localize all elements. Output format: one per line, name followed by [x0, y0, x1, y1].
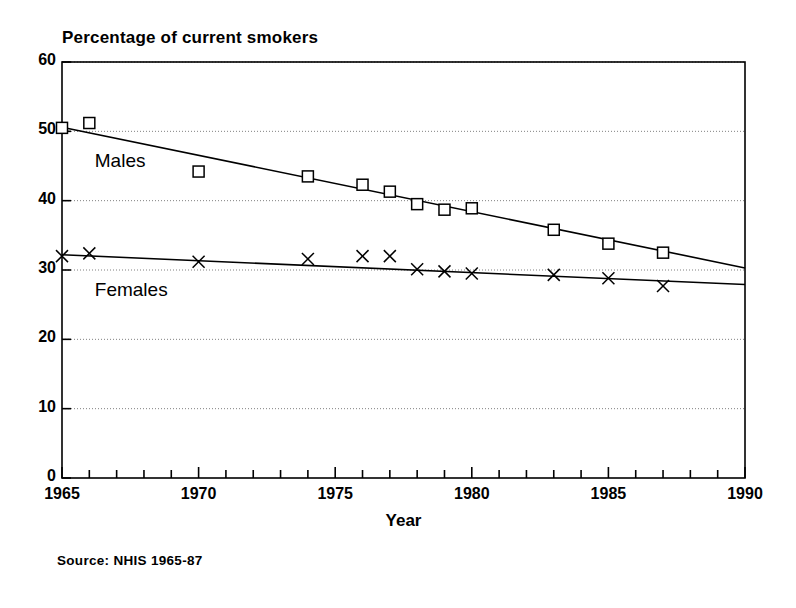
- x-axis-tick-label: 1990: [705, 485, 785, 503]
- y-axis-tick-label: 50: [10, 120, 56, 138]
- y-axis-tick-label: 10: [10, 398, 56, 416]
- series-annotation-males: Males: [95, 150, 146, 172]
- series-annotation-females: Females: [95, 279, 168, 301]
- x-axis-tick-label: 1985: [568, 485, 648, 503]
- source-note: Source: NHIS 1965-87: [57, 553, 203, 568]
- y-axis-tick-label: 20: [10, 328, 56, 346]
- x-axis-tick-label: 1965: [22, 485, 102, 503]
- chart-figure: Percentage of current smokers Year Sourc…: [0, 0, 796, 608]
- x-axis-tick-label: 1975: [295, 485, 375, 503]
- y-axis-tick-label: 60: [10, 51, 56, 69]
- y-axis-tick-label: 0: [10, 467, 56, 485]
- data-point-males: [357, 179, 368, 190]
- data-point-males: [384, 186, 395, 197]
- data-point-males: [466, 203, 477, 214]
- x-axis-tick-label: 1980: [432, 485, 512, 503]
- data-point-males: [84, 118, 95, 129]
- data-point-males: [57, 122, 68, 133]
- data-point-males: [603, 238, 614, 249]
- data-point-males: [302, 171, 313, 182]
- x-axis-tick-label: 1970: [159, 485, 239, 503]
- data-point-males: [412, 199, 423, 210]
- data-point-males: [548, 224, 559, 235]
- data-point-males: [439, 204, 450, 215]
- data-point-males: [658, 247, 669, 258]
- trendline-males: [62, 127, 745, 268]
- y-axis-tick-label: 30: [10, 259, 56, 277]
- data-point-males: [193, 166, 204, 177]
- x-axis-label: Year: [62, 511, 745, 531]
- y-axis-tick-label: 40: [10, 190, 56, 208]
